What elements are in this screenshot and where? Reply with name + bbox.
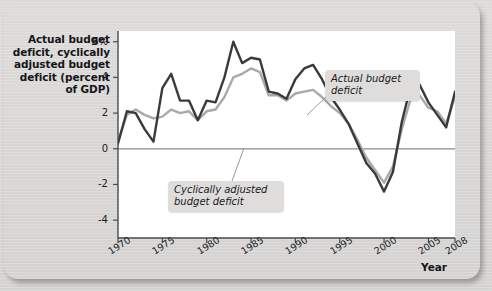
annotation-actual-budget-deficit: Actual budget deficit	[325, 70, 420, 101]
y-tick-label: 0	[82, 143, 108, 154]
y-tick-label: -2	[82, 178, 108, 189]
annotation-cyclically-adjusted-budget-deficit: Cyclically adjusted budget deficit	[168, 181, 284, 212]
y-tick-label: -4	[82, 214, 108, 225]
x-axis-title: Year	[421, 261, 447, 273]
y-tick-label: 6%	[82, 36, 108, 47]
y-tick-label: 4	[82, 71, 108, 82]
y-tick-label: 2	[82, 107, 108, 118]
data-series-group	[118, 42, 455, 192]
figure-panel: Actual budget deficit, cyclically adjust…	[0, 0, 492, 291]
